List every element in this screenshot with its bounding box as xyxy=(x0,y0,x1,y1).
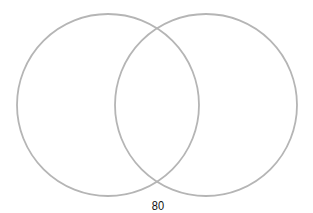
left-circle xyxy=(17,14,199,196)
venn-diagram xyxy=(0,0,313,213)
venn-label: 80 xyxy=(141,198,175,213)
right-circle xyxy=(115,14,297,196)
